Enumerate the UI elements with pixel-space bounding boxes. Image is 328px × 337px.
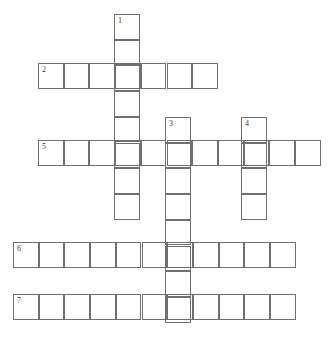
crossword-entry-6-across: 6 [13,242,296,268]
crossword-entry-4-down: 4 [241,117,267,220]
crossword-cell[interactable] [114,117,140,143]
crossword-cell[interactable] [244,140,270,166]
crossword-cell[interactable] [90,242,116,268]
crossword-cell[interactable] [219,242,245,268]
crossword-cell[interactable] [193,242,219,268]
crossword-cell[interactable] [167,294,193,320]
crossword-cell[interactable] [270,242,296,268]
crossword-cell[interactable] [64,63,90,89]
crossword-cell[interactable] [114,91,140,117]
crossword-entry-5-across: 5 [38,140,321,166]
crossword-cell[interactable] [219,294,245,320]
crossword-cell[interactable] [165,168,191,194]
crossword-cell[interactable] [90,294,116,320]
crossword-cell[interactable] [167,63,193,89]
crossword-cell[interactable] [192,63,218,89]
crossword-cell[interactable]: 3 [165,117,191,143]
crossword-cell[interactable] [165,194,191,220]
crossword-cell[interactable]: 5 [38,140,64,166]
crossword-cell[interactable]: 2 [38,63,64,89]
crossword-cell[interactable] [244,242,270,268]
crossword-cell[interactable] [218,140,244,166]
crossword-cell[interactable] [142,294,168,320]
crossword-cell[interactable] [115,63,141,89]
crossword-clue-number: 3 [169,119,173,128]
crossword-entry-7-across: 7 [13,294,296,320]
crossword-entry-2-across: 2 [38,63,218,89]
crossword-cell[interactable]: 7 [13,294,39,320]
crossword-cell[interactable] [116,242,142,268]
crossword-cell[interactable] [142,242,168,268]
crossword-clue-number: 1 [118,16,122,25]
crossword-cell[interactable]: 4 [241,117,267,143]
crossword-cell[interactable]: 1 [114,14,140,40]
crossword-cell[interactable] [115,140,141,166]
crossword-puzzle-grid: 1234567 [0,0,328,337]
crossword-clue-number: 2 [42,65,46,74]
crossword-cell[interactable] [89,140,115,166]
crossword-cell[interactable] [167,140,193,166]
crossword-cell[interactable] [141,63,167,89]
crossword-cell[interactable] [241,194,267,220]
crossword-cell[interactable]: 6 [13,242,39,268]
crossword-cell[interactable] [114,40,140,66]
crossword-cell[interactable] [64,140,90,166]
crossword-clue-number: 5 [42,142,46,151]
crossword-cell[interactable] [114,168,140,194]
crossword-clue-number: 6 [17,244,21,253]
crossword-cell[interactable] [244,294,270,320]
crossword-entry-1-down: 1 [114,14,140,220]
crossword-cell[interactable] [192,140,218,166]
crossword-cell[interactable] [64,294,90,320]
crossword-cell[interactable] [89,63,115,89]
crossword-cell[interactable] [241,168,267,194]
crossword-cell[interactable] [141,140,167,166]
crossword-cell[interactable] [39,242,65,268]
crossword-cell[interactable] [295,140,321,166]
crossword-cell[interactable] [269,140,295,166]
crossword-cell[interactable] [114,194,140,220]
crossword-clue-number: 7 [17,296,21,305]
crossword-cell[interactable] [116,294,142,320]
crossword-cell[interactable] [39,294,65,320]
crossword-cell[interactable] [167,242,193,268]
crossword-clue-number: 4 [245,119,249,128]
crossword-cell[interactable] [64,242,90,268]
crossword-cell[interactable] [270,294,296,320]
crossword-cell[interactable] [193,294,219,320]
